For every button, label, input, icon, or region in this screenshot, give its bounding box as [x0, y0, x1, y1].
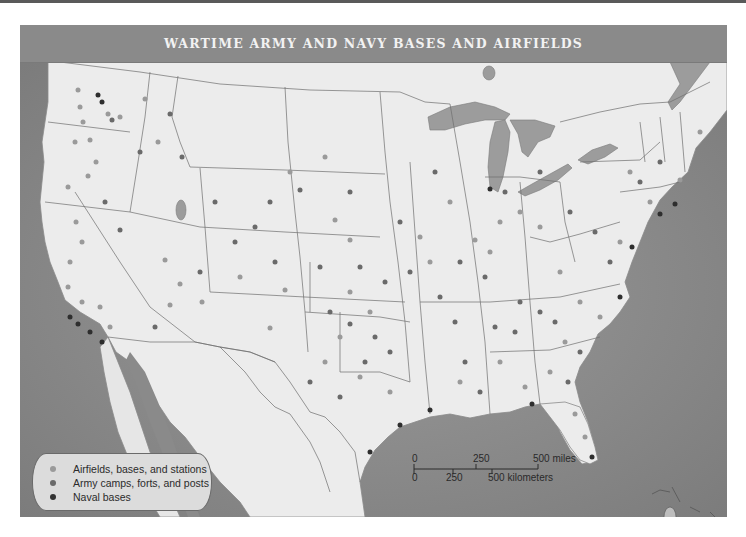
- scale-km-500: 500 kilometers: [488, 472, 553, 483]
- legend-label: Naval bases: [73, 491, 131, 503]
- top-rule: [0, 0, 746, 3]
- legend-item-army: Army camps, forts, and posts: [73, 476, 209, 490]
- scale-miles-500: 500 miles: [533, 453, 576, 464]
- map-frame: WARTIME ARMY AND NAVY BASES AND AIRFIELD…: [20, 25, 727, 517]
- legend: Airfields, bases, and stations Army camp…: [32, 453, 212, 511]
- gray-dot-icon: [50, 466, 56, 472]
- scale-miles-0: 0: [412, 453, 418, 464]
- black-dot-icon: [50, 494, 56, 500]
- scale-km-250: 250: [446, 472, 463, 483]
- scale-miles-250: 250: [473, 453, 490, 464]
- legend-label: Army camps, forts, and posts: [73, 477, 209, 489]
- scale-bar: 0 250 500 miles 0 250 500 kilometers: [408, 450, 588, 486]
- title-bar: WARTIME ARMY AND NAVY BASES AND AIRFIELD…: [20, 25, 727, 63]
- legend-item-airfields: Airfields, bases, and stations: [73, 462, 207, 476]
- dark-gray-dot-icon: [50, 480, 56, 486]
- us-map: [20, 62, 727, 517]
- scale-km-0: 0: [412, 472, 418, 483]
- great-salt-lake: [176, 200, 186, 220]
- legend-item-naval: Naval bases: [73, 490, 131, 504]
- map-title: WARTIME ARMY AND NAVY BASES AND AIRFIELD…: [164, 36, 583, 51]
- lake-nipigon: [483, 66, 495, 80]
- legend-label: Airfields, bases, and stations: [73, 463, 207, 475]
